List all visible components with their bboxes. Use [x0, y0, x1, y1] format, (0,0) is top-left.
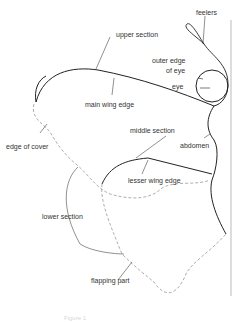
label-outer-edge-2: of eye	[166, 67, 185, 74]
label-edge-of-cover: edge of cover	[6, 143, 48, 150]
eye-circle	[196, 70, 228, 102]
label-flapping-part: flapping part	[91, 277, 130, 284]
label-lower-section: lower section	[42, 213, 83, 220]
insect-wing-diagram	[0, 0, 237, 322]
label-outer-edge-1: outer edge	[152, 57, 185, 64]
label-abdomen: abdomen	[180, 142, 209, 149]
label-main-wing-edge: main wing edge	[85, 101, 134, 108]
body-outline	[208, 106, 226, 234]
label-feelers: feelers	[196, 9, 217, 16]
feeler-line	[186, 24, 228, 84]
label-lesser-wing-edge: lesser wing edge	[128, 177, 181, 184]
label-middle-section: middle section	[130, 127, 175, 134]
figure-caption: Figure 1	[64, 315, 86, 321]
label-eye: eye	[172, 83, 183, 90]
label-upper-section: upper section	[116, 31, 158, 38]
edge-of-cover	[33, 104, 210, 198]
